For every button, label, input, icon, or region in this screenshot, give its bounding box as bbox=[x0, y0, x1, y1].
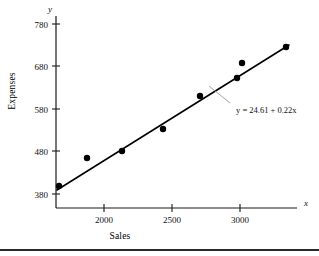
y-axis-title: Expenses bbox=[7, 61, 17, 121]
data-point-group bbox=[56, 44, 289, 189]
x-axis-title: Sales bbox=[0, 231, 240, 241]
data-point bbox=[283, 44, 289, 50]
data-point bbox=[234, 75, 240, 81]
footer-divider bbox=[0, 249, 319, 251]
y-tick-label-680: 680 bbox=[35, 62, 49, 72]
x-tick-label-2000: 2000 bbox=[95, 215, 114, 225]
regression-line bbox=[57, 45, 289, 190]
data-point bbox=[56, 183, 62, 189]
scatter-plot-figure: 780 680 580 480 380 2000 2500 3000 y x bbox=[0, 0, 319, 256]
data-point bbox=[197, 93, 203, 99]
data-point bbox=[84, 155, 90, 161]
data-point bbox=[119, 148, 125, 154]
data-point bbox=[239, 60, 245, 66]
y-tick-label-480: 480 bbox=[35, 147, 49, 157]
regression-equation-label: y = 24.61 + 0.22x bbox=[236, 105, 297, 115]
chart-canvas: 780 680 580 480 380 2000 2500 3000 y x bbox=[0, 0, 319, 256]
y-tick-label-580: 580 bbox=[35, 105, 49, 115]
y-tick-label-780: 780 bbox=[35, 20, 49, 30]
data-point bbox=[160, 126, 166, 132]
y-tick-label-380: 380 bbox=[35, 190, 49, 200]
y-axis-variable-label: y bbox=[47, 4, 52, 14]
x-tick-label-3000: 3000 bbox=[231, 215, 250, 225]
x-tick-label-2500: 2500 bbox=[163, 215, 182, 225]
x-axis-variable-label: x bbox=[303, 198, 308, 208]
